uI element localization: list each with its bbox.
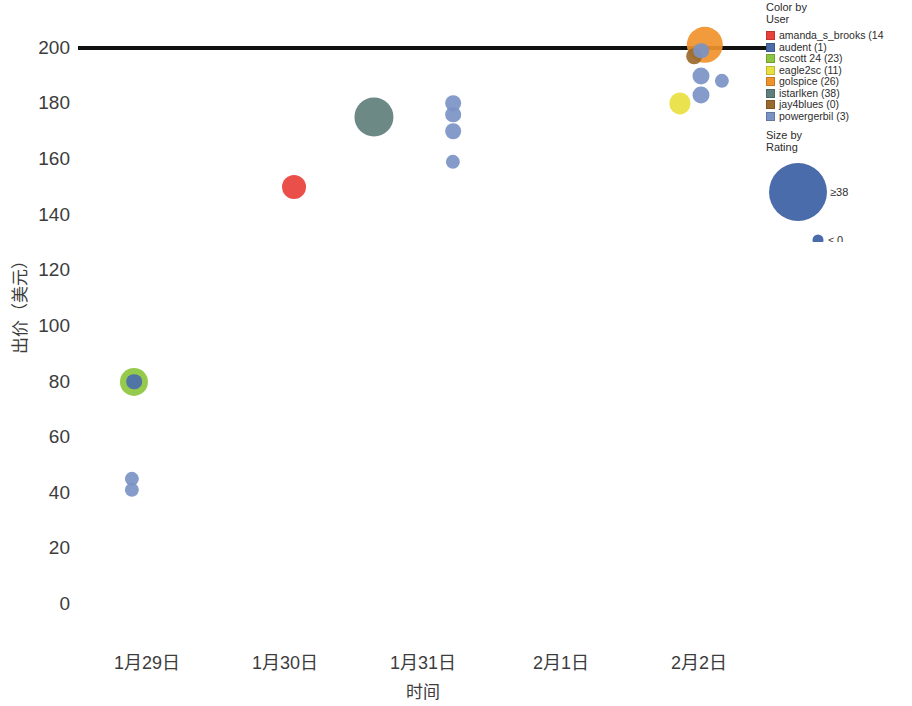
legend: Color by User amanda_s_brooks (14audent … (766, 2, 912, 242)
legend-item[interactable]: jay4blues (0) (766, 99, 912, 111)
legend-color-swatch (766, 77, 775, 86)
y-axis-tick-label: 80 (12, 371, 70, 393)
legend-color-swatch (766, 112, 775, 121)
y-axis-title: 出价（美元） (6, 233, 31, 373)
legend-item-label: golspice (26) (779, 76, 839, 88)
data-point-bubble[interactable] (692, 87, 709, 104)
size-legend-max-bubble (769, 163, 827, 221)
x-axis-tick-label: 1月31日 (390, 648, 456, 674)
data-point-bubble[interactable] (669, 93, 690, 114)
color-legend-title-line2: User (766, 14, 912, 26)
legend-item[interactable]: amanda_s_brooks (14 (766, 30, 912, 42)
x-axis-title: 时间 (78, 678, 768, 703)
data-point-bubble[interactable] (693, 43, 709, 59)
data-point-bubble[interactable] (354, 98, 393, 137)
size-legend-title-line1: Size by (766, 130, 912, 142)
bubble-chart: 020406080100120140160180200 出价（美元） 1月29日… (0, 0, 912, 706)
legend-color-swatch (766, 54, 775, 63)
y-axis-tick-label: 160 (12, 148, 70, 170)
data-point-bubble[interactable] (446, 155, 460, 169)
color-legend-title-line1: Color by (766, 2, 912, 14)
data-point-bubble[interactable] (282, 175, 306, 199)
legend-color-swatch (766, 100, 775, 109)
x-axis-tick-label: 2月2日 (671, 648, 727, 674)
legend-item[interactable]: powergerbil (3) (766, 111, 912, 123)
size-legend-max-label: ≥38 (830, 186, 848, 198)
legend-item-label: jay4blues (0) (779, 99, 839, 111)
size-legend-title-line2: Rating (766, 142, 912, 154)
legend-item-label: powergerbil (3) (779, 111, 849, 123)
y-axis-tick-label: 180 (12, 92, 70, 114)
reference-line (78, 46, 768, 50)
y-axis-tick-label: 60 (12, 426, 70, 448)
size-legend-min-label: ≤ 0 (828, 234, 843, 242)
legend-item[interactable]: golspice (26) (766, 76, 912, 88)
y-axis-tick-label: 20 (12, 537, 70, 559)
x-axis-tick-label: 1月29日 (114, 648, 180, 674)
legend-item-label: cscott 24 (23) (779, 53, 843, 65)
x-axis-tick-label: 2月1日 (533, 648, 589, 674)
legend-color-swatch (766, 66, 775, 75)
data-point-bubble[interactable] (715, 74, 729, 88)
color-legend-items: amanda_s_brooks (14audent (1)cscott 24 (… (766, 30, 912, 122)
data-point-bubble[interactable] (692, 67, 709, 84)
y-axis-tick-label: 140 (12, 204, 70, 226)
x-axis-ticks: 1月29日1月30日1月31日2月1日2月2日 (78, 648, 768, 674)
size-legend-min-bubble (813, 235, 824, 243)
legend-color-swatch (766, 43, 775, 52)
y-axis-tick-label: 40 (12, 482, 70, 504)
y-axis-tick-label: 0 (12, 593, 70, 615)
legend-color-swatch (766, 89, 775, 98)
legend-item-label: amanda_s_brooks (14 (779, 30, 883, 42)
size-legend: Size by Rating ≥38≤ 0 (766, 130, 912, 242)
legend-color-swatch (766, 31, 775, 40)
data-point-bubble[interactable] (445, 107, 461, 123)
data-point-bubble[interactable] (445, 123, 461, 139)
legend-item[interactable]: cscott 24 (23) (766, 53, 912, 65)
size-legend-body: ≥38≤ 0 (766, 159, 912, 242)
data-point-bubble[interactable] (125, 483, 139, 497)
plot-area (78, 20, 768, 604)
y-axis-tick-label: 200 (12, 37, 70, 59)
x-axis-tick-label: 1月30日 (252, 648, 318, 674)
data-point-bubble[interactable] (126, 374, 142, 390)
